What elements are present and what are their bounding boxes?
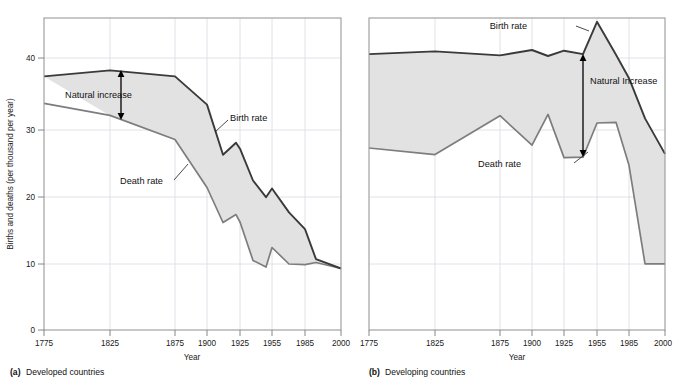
panel-b-death-rate-label: Death rate — [478, 159, 521, 169]
panel-a-ytick-10: 10 — [26, 260, 36, 269]
panel-b-natural-increase-label: Natural Increase — [590, 76, 657, 86]
panel-b: 1775 1825 1875 1900 1925 1955 1985 2000 … — [360, 18, 673, 377]
panel-a-natural-increase-band — [44, 70, 341, 268]
panel-a-caption-text: Developed countries — [26, 367, 104, 377]
panel-b-xtick-1900: 1900 — [523, 339, 542, 348]
panel-a-ytick-40: 40 — [26, 54, 36, 63]
panel-a-death-rate-label: Death rate — [120, 176, 163, 186]
panel-a-gridlines — [44, 18, 341, 330]
panel-b-x-tickmarks — [369, 330, 665, 336]
panel-a-xtick-1825: 1825 — [101, 339, 120, 348]
panel-a-y-tickmarks — [38, 58, 44, 330]
panel-a-x-axis-title: Year — [184, 353, 201, 362]
panel-b-x-axis-title: Year — [509, 353, 526, 362]
panel-a-y-axis-title: Births and deaths (per thousand per year… — [6, 98, 15, 250]
panel-b-xtick-1825: 1825 — [426, 339, 445, 348]
panel-a-xtick-1985: 1985 — [296, 339, 315, 348]
panel-a: 40 30 20 10 0 1775 1825 1875 1900 1925 1… — [6, 18, 351, 377]
panel-a-ytick-30: 30 — [26, 126, 36, 135]
panel-a-plot-frame — [44, 18, 341, 330]
panel-a-birth-rate-label: Birth rate — [230, 113, 267, 123]
panel-a-death-rate-leader — [174, 164, 188, 180]
panel-a-caption-tag: (a) — [10, 367, 21, 377]
panel-a-x-tickmarks — [44, 330, 341, 336]
panel-b-caption-tag: (b) — [369, 367, 380, 377]
demographic-transition-figure: 40 30 20 10 0 1775 1825 1875 1900 1925 1… — [0, 0, 693, 389]
panel-a-ytick-20: 20 — [26, 193, 36, 202]
panel-a-xtick-1875: 1875 — [166, 339, 185, 348]
panel-b-xtick-1775: 1775 — [360, 339, 379, 348]
panel-a-natural-increase-label: Natural increase — [65, 90, 132, 100]
panel-b-caption-text: Developing countries — [385, 367, 465, 377]
panel-a-xtick-1955: 1955 — [263, 339, 282, 348]
panel-b-xtick-1875: 1875 — [491, 339, 510, 348]
panel-a-xtick-2000: 2000 — [332, 339, 351, 348]
panel-a-xtick-1925: 1925 — [231, 339, 250, 348]
panel-b-birth-rate-leader — [576, 26, 589, 31]
panel-b-xtick-1925: 1925 — [555, 339, 574, 348]
panel-a-xtick-1775: 1775 — [35, 339, 54, 348]
panel-a-ytick-0: 0 — [30, 326, 35, 335]
panel-b-birth-rate-label: Birth rate — [490, 21, 527, 31]
panel-a-xtick-1900: 1900 — [198, 339, 217, 348]
panel-b-xtick-1955: 1955 — [588, 339, 607, 348]
panel-b-xtick-2000: 2000 — [654, 339, 673, 348]
panel-b-xtick-1985: 1985 — [620, 339, 639, 348]
